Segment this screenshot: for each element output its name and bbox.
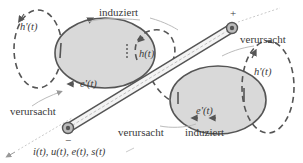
- top-induziert-label: induziert: [99, 6, 138, 18]
- minus-sign: −: [65, 134, 71, 146]
- top-right-verursacht-label: verursacht: [240, 33, 286, 45]
- induction-diagram: + − h'(t) e'(t) h(t) e'(t) h'(t) induzie…: [0, 0, 303, 163]
- right-e-field-ellipse: [170, 66, 266, 134]
- left-h-prime-label: h'(t): [20, 21, 38, 33]
- left-verursacht-label: verursacht: [10, 105, 56, 117]
- plus-sign: +: [230, 7, 236, 19]
- left-e-label: e'(t): [80, 78, 97, 90]
- bottom-induziert-label: induziert: [185, 126, 224, 138]
- conductor-quantities-label: i(t), u(t), e(t), s(t): [33, 146, 106, 158]
- bottom-verursacht-label: verursacht: [118, 126, 164, 138]
- h-main-label: h(t): [139, 48, 155, 60]
- right-h-prime-label: h'(t): [254, 66, 272, 78]
- right-e-label: e'(t): [196, 105, 213, 117]
